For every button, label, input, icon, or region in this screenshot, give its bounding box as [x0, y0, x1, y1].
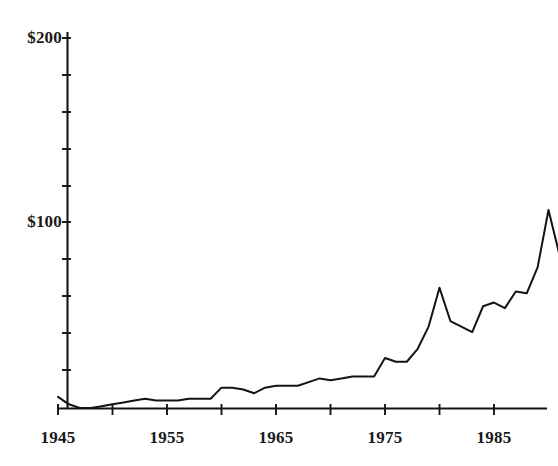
y-tick-label-100: $100	[26, 212, 62, 232]
data-series-line	[58, 210, 558, 408]
x-tick-label-1955: 1955	[138, 428, 196, 448]
line-chart-plot	[0, 0, 558, 466]
x-tick-label-1945: 1945	[29, 428, 87, 448]
x-tick-label-1975: 1975	[356, 428, 414, 448]
x-tick-label-1965: 1965	[247, 428, 305, 448]
y-tick-label-200: $200	[26, 28, 62, 48]
chart-figure: $200 $100 1945 1955 1965 1975 1985	[0, 0, 558, 466]
x-tick-label-1985: 1985	[465, 428, 523, 448]
